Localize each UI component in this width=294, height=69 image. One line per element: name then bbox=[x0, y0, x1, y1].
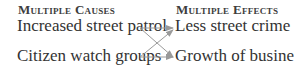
arrows-diagram bbox=[0, 0, 294, 69]
